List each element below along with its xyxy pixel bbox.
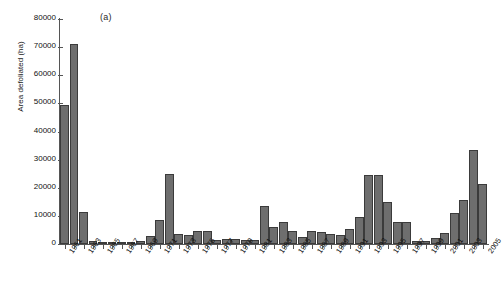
y-tick-label: 60000 — [34, 69, 56, 78]
x-tick-mark — [255, 245, 256, 249]
bar — [165, 174, 174, 244]
x-tick-mark — [169, 245, 170, 249]
y-tick-label: 50000 — [34, 97, 56, 106]
x-tick-mark — [207, 245, 208, 249]
y-tick-label: 70000 — [34, 41, 56, 50]
x-tick-mark — [131, 245, 132, 249]
y-tick-mark — [58, 244, 63, 245]
x-tick-mark — [236, 245, 237, 249]
bar — [469, 150, 478, 244]
x-tick-mark — [417, 245, 418, 249]
y-axis-label: Area defoliated (ha) — [16, 0, 25, 157]
x-tick-mark — [226, 245, 227, 249]
x-tick-mark — [398, 245, 399, 249]
y-tick-label: 10000 — [34, 210, 56, 219]
bar — [459, 200, 468, 244]
x-tick-mark — [264, 245, 265, 249]
y-tick-label: 30000 — [34, 154, 56, 163]
x-tick-mark — [274, 245, 275, 249]
x-tick-mark — [341, 245, 342, 249]
x-tick-mark — [93, 245, 94, 249]
x-tick-mark — [388, 245, 389, 249]
bar — [478, 184, 487, 244]
x-tick-mark — [284, 245, 285, 249]
x-tick-mark — [303, 245, 304, 249]
plot-area — [60, 19, 488, 244]
x-tick-mark — [360, 245, 361, 249]
x-tick-mark — [160, 245, 161, 249]
bar — [364, 175, 373, 244]
x-tick-mark — [322, 245, 323, 249]
x-tick-mark — [350, 245, 351, 249]
x-tick-mark — [141, 245, 142, 249]
x-tick-mark — [188, 245, 189, 249]
x-tick-mark — [74, 245, 75, 249]
x-tick-mark — [464, 245, 465, 249]
x-tick-mark — [217, 245, 218, 249]
x-tick-mark — [445, 245, 446, 249]
y-tick-label: 20000 — [34, 182, 56, 191]
bar — [60, 105, 69, 244]
x-tick-mark — [483, 245, 484, 249]
x-tick-mark — [65, 245, 66, 249]
x-tick-mark — [84, 245, 85, 249]
x-tick-mark — [245, 245, 246, 249]
x-tick-mark — [379, 245, 380, 249]
x-tick-mark — [150, 245, 151, 249]
bar — [374, 175, 383, 244]
y-tick-label: 40000 — [34, 126, 56, 135]
x-tick-mark — [436, 245, 437, 249]
x-tick-mark — [198, 245, 199, 249]
x-tick-mark — [293, 245, 294, 249]
x-tick-mark — [112, 245, 113, 249]
bar — [70, 44, 79, 244]
x-tick-mark — [407, 245, 408, 249]
x-tick-mark — [103, 245, 104, 249]
x-tick-mark — [455, 245, 456, 249]
x-tick-mark — [179, 245, 180, 249]
x-tick-mark — [331, 245, 332, 249]
x-tick-mark — [474, 245, 475, 249]
x-tick-mark — [426, 245, 427, 249]
x-tick-mark — [312, 245, 313, 249]
x-tick-mark — [369, 245, 370, 249]
x-tick-label: 2005 — [486, 236, 503, 255]
caption-strip — [34, 272, 454, 278]
y-tick-label: 80000 — [34, 13, 56, 22]
x-tick-mark — [122, 245, 123, 249]
y-tick-label: 0 — [52, 238, 56, 247]
